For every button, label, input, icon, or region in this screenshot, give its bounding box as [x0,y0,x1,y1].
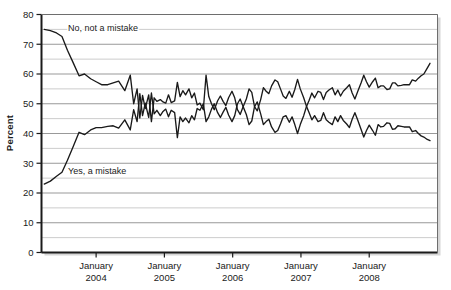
no-not-a-mistake-label: No, not a mistake [68,23,138,33]
y-tick-label-50: 50 [23,98,34,109]
y-tick-label-40: 40 [23,128,34,139]
x-tick-label-year-2008: 2008 [359,272,380,283]
yes-a-mistake-label: Yes, a mistake [68,166,126,176]
x-tick-label-month-2005: January [147,260,181,271]
y-axis-title: Percent [4,114,15,151]
x-tick-label-month-2006: January [216,260,250,271]
y-tick-label-60: 60 [23,68,34,79]
percent-line-chart: 01020304050607080 January2004January2005… [0,0,451,290]
x-tick-label-month-2007: January [284,260,318,271]
y-tick-label-30: 30 [23,158,34,169]
y-axis-tick-labels: 01020304050607080 [23,9,34,258]
x-tick-label-month-2008: January [352,260,386,271]
x-tick-label-month-2004: January [79,260,113,271]
x-tick-label-year-2004: 2004 [86,272,107,283]
chart-container: 01020304050607080 January2004January2005… [0,0,451,290]
y-tick-label-70: 70 [23,39,34,50]
x-tick-label-year-2005: 2005 [154,272,175,283]
y-tick-label-80: 80 [23,9,34,20]
y-tick-label-0: 0 [28,247,33,258]
y-tick-label-20: 20 [23,187,34,198]
y-tick-label-10: 10 [23,217,34,228]
x-tick-label-year-2006: 2006 [222,272,243,283]
x-tick-label-year-2007: 2007 [290,272,311,283]
